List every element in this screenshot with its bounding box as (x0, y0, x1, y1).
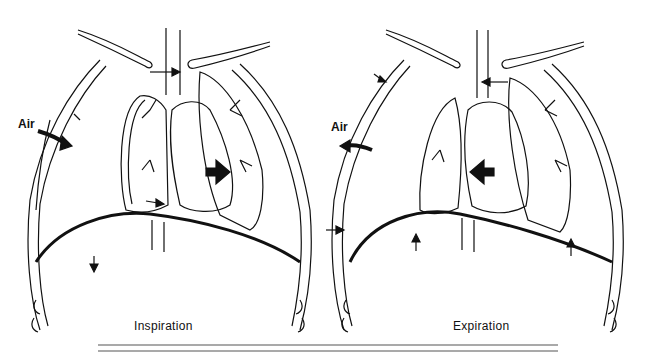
air-label-expiration: Air (331, 120, 348, 134)
figure: Air Air Inspiration Expiration (0, 0, 647, 359)
expiration-panel (326, 30, 623, 332)
respiration-diagram (0, 0, 647, 359)
caption-expiration: Expiration (453, 319, 509, 333)
inspiration-panel (28, 28, 311, 332)
caption-inspiration: Inspiration (134, 319, 193, 333)
air-label-inspiration: Air (18, 117, 35, 131)
